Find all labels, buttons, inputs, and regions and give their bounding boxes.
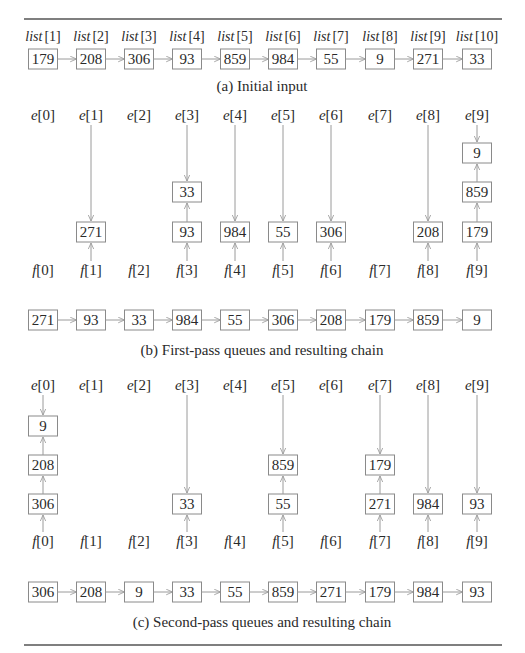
node-value: 306 <box>32 584 55 600</box>
queue-node: 306 <box>317 222 346 242</box>
list-node: 179 <box>29 49 58 69</box>
e-pointer-label: e[2] <box>127 377 151 393</box>
node-value: 93 <box>470 584 485 600</box>
queue-node: 859 <box>463 182 492 202</box>
chain-node: 859 <box>414 310 443 330</box>
node-value: 55 <box>276 224 291 240</box>
node-value: 271 <box>417 51 440 67</box>
chain-node: 9 <box>463 310 492 330</box>
queue-node: 33 <box>173 494 202 514</box>
node-value: 306 <box>272 312 295 328</box>
queue-node: 55 <box>269 494 298 514</box>
queue-node: 9 <box>463 143 492 163</box>
chain-node: 306 <box>29 582 58 602</box>
f-pointer-label: f[8] <box>417 533 439 549</box>
node-value: 33 <box>180 584 195 600</box>
list-node: 271 <box>414 49 443 69</box>
node-value: 55 <box>324 51 339 67</box>
node-value: 33 <box>132 312 147 328</box>
chain-node: 271 <box>29 310 58 330</box>
e-pointer-label: e[4] <box>223 107 247 123</box>
queue-node: 306 <box>29 494 58 514</box>
node-value: 9 <box>473 312 481 328</box>
queue-node: 208 <box>29 455 58 475</box>
e-pointer-label: e[0] <box>31 107 55 123</box>
node-value: 179 <box>369 584 392 600</box>
f-pointer-label: f[5] <box>272 533 294 549</box>
f-pointer-label: f[4] <box>224 533 246 549</box>
e-pointer-label: e[3] <box>175 107 199 123</box>
chain-node: 984 <box>414 582 443 602</box>
node-value: 179 <box>466 224 489 240</box>
e-pointer-label: e[1] <box>79 107 103 123</box>
queue-node: 984 <box>414 494 443 514</box>
f-pointer-label: f[2] <box>128 533 150 549</box>
f-pointer-label: f[3] <box>176 262 198 278</box>
list-label: list[3] <box>121 29 156 44</box>
node-value: 9 <box>473 145 481 161</box>
queue-node: 179 <box>366 455 395 475</box>
e-pointer-label: e[5] <box>271 377 295 393</box>
node-value: 179 <box>32 51 55 67</box>
node-value: 179 <box>369 457 392 473</box>
node-value: 859 <box>272 584 295 600</box>
list-node: 306 <box>125 49 154 69</box>
list-node: 984 <box>269 49 298 69</box>
node-value: 93 <box>84 312 99 328</box>
e-pointer-label: e[2] <box>127 107 151 123</box>
node-value: 271 <box>369 496 392 512</box>
caption-b: (b) First-pass queues and resulting chai… <box>141 342 384 359</box>
f-pointer-label: f[1] <box>80 262 102 278</box>
chain-node: 271 <box>317 582 346 602</box>
f-pointer-label: f[1] <box>80 533 102 549</box>
f-pointer-label: f[0] <box>32 262 54 278</box>
list-label: list[6] <box>265 29 300 44</box>
f-pointer-label: f[2] <box>128 262 150 278</box>
node-value: 55 <box>228 584 243 600</box>
e-pointer-label: e[9] <box>465 107 489 123</box>
node-value: 208 <box>320 312 343 328</box>
queue-node: 271 <box>77 222 106 242</box>
list-label: list[8] <box>362 29 397 44</box>
e-pointer-label: e[1] <box>79 377 103 393</box>
e-pointer-label: e[7] <box>368 377 392 393</box>
node-value: 859 <box>224 51 247 67</box>
chain-node: 33 <box>173 582 202 602</box>
node-value: 984 <box>176 312 199 328</box>
chain-node: 859 <box>269 582 298 602</box>
chain-node: 55 <box>221 310 250 330</box>
queue-node: 9 <box>29 416 58 436</box>
f-pointer-label: f[4] <box>224 262 246 278</box>
list-label: list[7] <box>313 29 348 44</box>
list-node: 55 <box>317 49 346 69</box>
node-value: 93 <box>470 496 485 512</box>
e-pointer-label: e[8] <box>416 377 440 393</box>
list-label: list[1] <box>25 29 60 44</box>
list-label: list[9] <box>410 29 445 44</box>
node-value: 271 <box>32 312 55 328</box>
queue-node: 984 <box>221 222 250 242</box>
list-node: 208 <box>77 49 106 69</box>
queue-node: 55 <box>269 222 298 242</box>
list-label: list[4] <box>169 29 204 44</box>
node-value: 984 <box>417 584 440 600</box>
node-value: 55 <box>228 312 243 328</box>
chain-node: 208 <box>77 582 106 602</box>
queue-node: 179 <box>463 222 492 242</box>
node-value: 55 <box>276 496 291 512</box>
node-value: 9 <box>376 51 384 67</box>
node-value: 9 <box>135 584 143 600</box>
node-value: 208 <box>80 584 103 600</box>
list-node: 93 <box>173 49 202 69</box>
node-value: 33 <box>180 496 195 512</box>
chain-node: 9 <box>125 582 154 602</box>
e-pointer-label: e[8] <box>416 107 440 123</box>
node-value: 33 <box>470 51 485 67</box>
e-pointer-label: e[5] <box>271 107 295 123</box>
queue-node: 33 <box>173 182 202 202</box>
node-value: 93 <box>180 224 195 240</box>
chain-node: 33 <box>125 310 154 330</box>
node-value: 984 <box>417 496 440 512</box>
node-value: 306 <box>320 224 343 240</box>
chain-node: 179 <box>366 310 395 330</box>
